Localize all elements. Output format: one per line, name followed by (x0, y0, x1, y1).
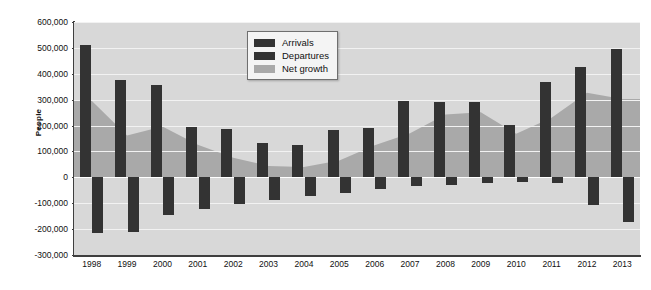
legend-swatch (254, 39, 275, 47)
y-tick-label: -300,000 (10, 250, 68, 260)
x-tick-label: 2012 (577, 259, 596, 269)
y-tick-label: 300,000 (10, 95, 68, 105)
y-tick-label: 100,000 (10, 146, 68, 156)
bar-departures (588, 177, 599, 205)
bar-departures (375, 177, 386, 189)
bar-departures (446, 177, 457, 184)
gridline (74, 22, 640, 23)
x-tick-label: 2005 (330, 259, 349, 269)
bar-arrivals (151, 85, 162, 178)
bar-departures (305, 177, 316, 196)
bar-departures (199, 177, 210, 208)
legend-swatch (254, 65, 275, 73)
x-tick-label: 2010 (507, 259, 526, 269)
bar-arrivals (469, 102, 480, 177)
bar-arrivals (398, 101, 409, 177)
bar-departures (128, 177, 139, 232)
bar-arrivals (434, 102, 445, 177)
bar-arrivals (540, 82, 551, 177)
x-tick-label: 2011 (542, 259, 560, 269)
bar-departures (623, 177, 634, 222)
x-tick-label: 1998 (82, 259, 101, 269)
y-tick-label: -200,000 (10, 224, 68, 234)
x-tick-label: 1999 (118, 259, 137, 269)
legend-item: Departures (254, 49, 329, 62)
x-tick-label: 2002 (224, 259, 243, 269)
bar-departures (92, 177, 103, 232)
y-tick-label: 500,000 (10, 43, 68, 53)
x-tick-label: 2008 (436, 259, 455, 269)
x-tick-label: 2000 (153, 259, 172, 269)
y-tick-label: 0 (10, 172, 68, 182)
bar-arrivals (363, 128, 374, 178)
x-tick-label: 2013 (613, 259, 632, 269)
bar-departures (269, 177, 280, 199)
bar-arrivals (257, 143, 268, 177)
legend-label: Arrivals (282, 37, 314, 48)
bar-arrivals (221, 129, 232, 177)
x-tick-label: 2009 (471, 259, 490, 269)
bar-departures (411, 177, 422, 186)
bar-departures (552, 177, 563, 182)
migration-chart: People 600,000500,000400,000300,000200,0… (0, 0, 651, 290)
gridline (74, 229, 640, 230)
bar-departures (163, 177, 174, 214)
x-tick-label: 2004 (294, 259, 313, 269)
bar-arrivals (115, 80, 126, 177)
x-tick-label: 2003 (259, 259, 278, 269)
legend-item: Net growth (254, 62, 329, 75)
legend-swatch (254, 52, 275, 60)
x-axis-tick-labels: 1998199920002001200220032004200520062007… (74, 259, 640, 275)
bar-arrivals (611, 49, 622, 177)
plot-area (74, 22, 640, 255)
y-axis-tick-labels: 600,000500,000400,000300,000200,000100,0… (10, 22, 68, 255)
bar-departures (340, 177, 351, 193)
bar-departures (234, 177, 245, 204)
legend-item: Arrivals (254, 36, 329, 49)
x-tick-label: 2001 (188, 259, 207, 269)
gridline (74, 203, 640, 204)
gridline (74, 74, 640, 75)
x-tick-label: 2006 (365, 259, 384, 269)
legend-label: Departures (282, 50, 329, 61)
bar-arrivals (575, 67, 586, 178)
x-tick-label: 2007 (401, 259, 420, 269)
bar-arrivals (186, 127, 197, 177)
y-tick-label: 600,000 (10, 17, 68, 27)
gridline (74, 48, 640, 49)
legend-label: Net growth (282, 63, 328, 74)
bar-arrivals (80, 45, 91, 177)
y-tick-label: 400,000 (10, 69, 68, 79)
x-axis-line (73, 255, 641, 257)
bar-departures (482, 177, 493, 182)
chart-legend: ArrivalsDeparturesNet growth (247, 31, 338, 80)
bar-departures (517, 177, 528, 182)
bar-arrivals (292, 145, 303, 177)
y-tick-label: 200,000 (10, 121, 68, 131)
y-tick-label: -100,000 (10, 198, 68, 208)
bar-arrivals (504, 125, 515, 177)
bar-arrivals (328, 130, 339, 177)
